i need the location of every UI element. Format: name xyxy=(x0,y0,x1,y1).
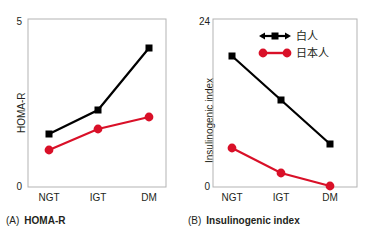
data-point-japanese-b-igt xyxy=(277,169,286,178)
x-tick-b-ngt: NGT xyxy=(212,193,252,203)
panel-insulinogenic-index: 24 0 Insulinogenic index xyxy=(185,0,370,237)
x-tick-a-igt: IGT xyxy=(78,193,118,203)
x-tick-a-dm: DM xyxy=(129,193,169,203)
legend: 白人 日本人 xyxy=(258,27,354,61)
panel-homa-r: 5 0 HOMA-R NGT IGT DM (A)HOMA-R xyxy=(0,0,185,237)
data-point-white-people-b-dm xyxy=(327,141,334,148)
data-point-white-people-a-ngt xyxy=(46,131,53,138)
x-tick-a-ngt: NGT xyxy=(29,193,69,203)
legend-item-japanese: 日本人 xyxy=(258,44,354,61)
data-point-white-people-b-ngt xyxy=(229,53,236,60)
caption-b-text: Insulinogenic index xyxy=(206,215,299,226)
legend-label-white-people: 白人 xyxy=(296,30,318,42)
data-point-japanese-b-ngt xyxy=(228,144,237,153)
data-point-white-people-b-igt xyxy=(278,97,285,104)
plot-area-a xyxy=(0,0,185,200)
data-point-japanese-b-dm xyxy=(326,182,335,191)
series-line-japanese-b xyxy=(232,148,330,186)
legend-label-japanese: 日本人 xyxy=(296,47,329,59)
legend-item-white-people: 白人 xyxy=(258,27,354,44)
caption-a-text: HOMA-R xyxy=(24,215,65,226)
caption-a-tag: (A) xyxy=(6,215,19,226)
legend-marker-circle-icon xyxy=(258,46,292,60)
caption-a: (A)HOMA-R xyxy=(6,215,65,227)
data-point-white-people-a-dm xyxy=(146,45,153,52)
series-line-japanese-a xyxy=(49,117,149,150)
figure-container: 5 0 HOMA-R NGT IGT DM (A)HOMA-R 24 0 Ins xyxy=(0,0,370,237)
data-point-white-people-a-igt xyxy=(95,107,102,114)
caption-b-tag: (B) xyxy=(188,215,201,226)
x-tick-b-dm: DM xyxy=(310,193,350,203)
legend-marker-square-icon xyxy=(258,29,292,43)
plot-frame-a xyxy=(28,19,166,187)
x-tick-b-igt: IGT xyxy=(261,193,301,203)
data-point-japanese-a-igt xyxy=(94,125,103,134)
data-point-japanese-a-ngt xyxy=(45,146,54,155)
data-point-japanese-a-dm xyxy=(145,113,154,122)
caption-b: (B)Insulinogenic index xyxy=(188,215,300,227)
